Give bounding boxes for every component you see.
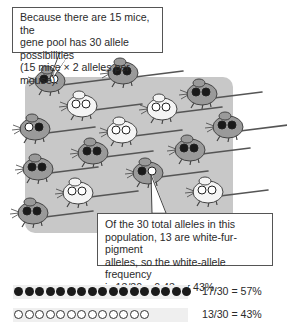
- white-allele-dot: [46, 310, 55, 319]
- mouse-ear: [24, 198, 36, 206]
- dark-allele-marker: [28, 163, 36, 171]
- mouse-ear: [199, 177, 211, 185]
- mouse-whiskers: [15, 165, 24, 174]
- white-allele-marker: [68, 187, 76, 195]
- dark-allele-dot: [77, 287, 86, 296]
- white-allele-marker: [122, 126, 130, 134]
- white-allele-dot: [119, 310, 128, 319]
- dark-allele-dot: [161, 287, 170, 296]
- dark-allele-frequency-label: 17/30 = 57%: [202, 285, 262, 297]
- dark-allele-marker: [93, 147, 101, 155]
- mouse-whiskers: [12, 125, 21, 134]
- white-allele-marker: [112, 126, 120, 134]
- dark-allele-dot: [172, 287, 181, 296]
- white-allele-dot: [67, 310, 76, 319]
- white-allele-dot: [88, 310, 97, 319]
- callout-line: gene pool has 30 allele possibilities: [20, 36, 156, 61]
- dark-allele-dot: [98, 287, 107, 296]
- mouse-ear: [69, 178, 81, 186]
- white-allele-marker: [82, 100, 90, 108]
- callout-line: population, 13 are white-fur-pigment: [105, 231, 266, 256]
- white-allele-dot: [109, 310, 118, 319]
- white-allele-marker: [78, 187, 86, 195]
- callout-line: alleles, so the white-allele frequency: [105, 256, 266, 281]
- white-allele-frequency-label: 13/30 = 43%: [202, 308, 262, 320]
- white-allele-dot: [98, 310, 107, 319]
- mouse-ear: [139, 158, 151, 166]
- white-allele-marker: [162, 103, 170, 111]
- mouse-tail: [240, 125, 287, 131]
- dark-allele-dot: [151, 287, 160, 296]
- callout-line: Of the 30 total alleles in this: [105, 218, 266, 231]
- white-allele-marker: [148, 167, 156, 175]
- dark-allele-dot: [14, 287, 23, 296]
- white-allele-marker: [152, 103, 160, 111]
- dark-allele-marker: [218, 121, 226, 129]
- white-allele-dot: [140, 310, 149, 319]
- mouse-ear: [219, 112, 231, 120]
- gene-pool-callout: Because there are 15 mice, the gene pool…: [12, 7, 163, 53]
- dark-allele-dots: [14, 287, 191, 296]
- white-allele-marker: [208, 186, 216, 194]
- mouse-ear: [153, 94, 165, 102]
- allele-frequency-diagram: Because there are 15 mice, the gene pool…: [0, 0, 287, 332]
- dark-allele-dot: [119, 287, 128, 296]
- dark-allele-dot: [140, 287, 149, 296]
- white-allele-marker: [198, 186, 206, 194]
- dark-allele-marker: [138, 167, 146, 175]
- white-allele-dot: [77, 310, 86, 319]
- mouse-ear: [181, 135, 193, 143]
- dark-allele-dot: [46, 287, 55, 296]
- mouse-ear: [73, 91, 85, 99]
- callout-line: Because there are 15 mice, the: [20, 11, 156, 36]
- white-allele-dot: [25, 310, 34, 319]
- dark-allele-dot: [182, 287, 191, 296]
- dark-allele-marker: [190, 144, 198, 152]
- dark-allele-marker: [192, 88, 200, 96]
- dark-allele-marker: [202, 88, 210, 96]
- dark-allele-dot: [25, 287, 34, 296]
- mouse-whiskers: [10, 209, 19, 218]
- mouse-ear: [113, 117, 125, 125]
- allele-frequency-callout: Of the 30 total alleles in this populati…: [97, 213, 273, 266]
- dark-allele-dot: [56, 287, 65, 296]
- dark-allele-marker: [83, 147, 91, 155]
- dark-allele-marker: [35, 123, 43, 131]
- dark-allele-dot: [35, 287, 44, 296]
- white-allele-dots: [14, 310, 149, 319]
- dark-allele-dot: [109, 287, 118, 296]
- white-allele-dot: [14, 310, 23, 319]
- white-allele-dot: [130, 310, 139, 319]
- dark-allele-dot: [130, 287, 139, 296]
- mouse-ear: [84, 138, 96, 146]
- mouse-ear: [29, 154, 41, 162]
- mouse-ear: [193, 79, 205, 87]
- dark-allele-marker: [180, 144, 188, 152]
- dark-allele-marker: [33, 207, 41, 215]
- dark-allele-marker: [23, 207, 31, 215]
- dark-allele-dot: [67, 287, 76, 296]
- white-allele-marker: [25, 123, 33, 131]
- dark-allele-dot: [88, 287, 97, 296]
- dark-allele-marker: [38, 163, 46, 171]
- mouse-ear: [26, 114, 38, 122]
- white-allele-dot: [35, 310, 44, 319]
- callout-line: (15 mice × 2 alleles per mouse).: [20, 61, 156, 86]
- white-allele-dot: [56, 310, 65, 319]
- white-allele-marker: [72, 100, 80, 108]
- dark-allele-marker: [228, 121, 236, 129]
